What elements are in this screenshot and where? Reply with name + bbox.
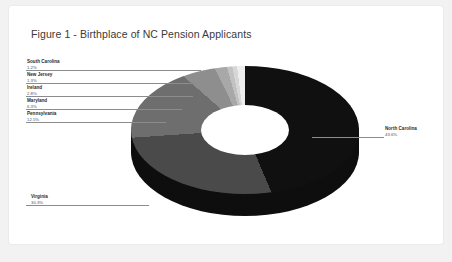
slice-label-pennsylvania: Pennsylvania 12.5% xyxy=(27,111,56,123)
slice-label-ireland: Ireland 2.8% xyxy=(27,85,42,97)
donut-hole xyxy=(201,105,289,155)
slice-label-new-jersey: New Jersey 1.3% xyxy=(27,72,52,84)
slice-label-north-carolina: North Carolina 43.6% xyxy=(385,126,417,138)
slice-label-value: 1.3% xyxy=(27,78,52,84)
slice-label-value: 2.8% xyxy=(27,91,42,97)
leader-line-ireland xyxy=(26,96,193,97)
slice-label-value: 43.6% xyxy=(385,132,417,138)
leader-line-north-carolina xyxy=(312,137,384,138)
slice-label-value: 12.5% xyxy=(27,117,56,123)
leader-line-maryland xyxy=(26,109,182,110)
donut-graphic xyxy=(131,66,359,218)
screenshot-root: Figure 1 - Birthplace of NC Pension Appl… xyxy=(0,0,452,262)
slice-label-virginia: Virginia 30.3% xyxy=(31,194,48,206)
slice-label-value: 1.2% xyxy=(27,65,60,71)
slice-label-south-carolina: South Carolina 1.2% xyxy=(27,59,60,71)
slice-label-value: 30.3% xyxy=(31,200,48,206)
slice-label-value: 6.3% xyxy=(27,104,47,110)
slice-label-maryland: Maryland 6.3% xyxy=(27,98,47,110)
donut-chart: South Carolina 1.2% New Jersey 1.3% Irel… xyxy=(0,0,452,262)
